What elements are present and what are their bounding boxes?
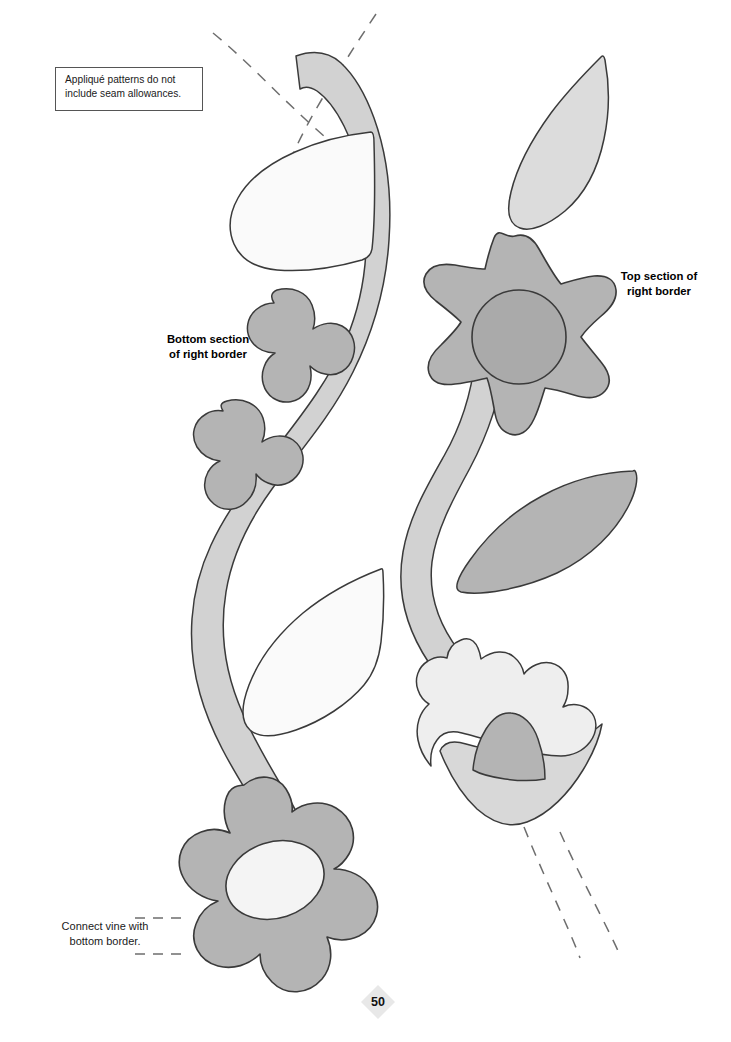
leaf-top-right-light xyxy=(509,56,609,229)
note-line-2: include seam allowances. xyxy=(65,87,194,101)
caption-top-section: Top section of right border xyxy=(597,269,721,298)
blob-clover-lower xyxy=(194,400,304,509)
appliqué-pattern-artwork xyxy=(0,0,731,1042)
vine-continuation-dash-a-icon xyxy=(524,827,580,958)
page-number: 50 xyxy=(361,985,395,1019)
leaf-upper-left-white xyxy=(230,132,374,271)
leaf-mid-right-gray xyxy=(457,470,637,593)
caption-bottom-section-line-1: Bottom section xyxy=(150,332,266,347)
caption-connect-vine-line-1: Connect vine with xyxy=(40,919,170,934)
caption-bottom-section: Bottom section of right border xyxy=(150,332,266,361)
caption-top-section-line-2: right border xyxy=(597,284,721,299)
caption-top-section-line-1: Top section of xyxy=(597,269,721,284)
star-flower-center xyxy=(472,290,566,384)
seam-allowance-note-box: Appliqué patterns do not include seam al… xyxy=(55,67,203,111)
vine-continuation-dash-b-icon xyxy=(560,832,619,953)
pattern-page: Appliqué patterns do not include seam al… xyxy=(0,0,731,1042)
note-line-1: Appliqué patterns do not xyxy=(65,73,194,87)
caption-connect-vine: Connect vine with bottom border. xyxy=(40,919,170,948)
caption-connect-vine-line-2: bottom border. xyxy=(40,934,170,949)
leaf-lower-left-white xyxy=(243,569,383,736)
page-number-value: 50 xyxy=(361,985,395,1019)
caption-bottom-section-line-2: of right border xyxy=(150,347,266,362)
